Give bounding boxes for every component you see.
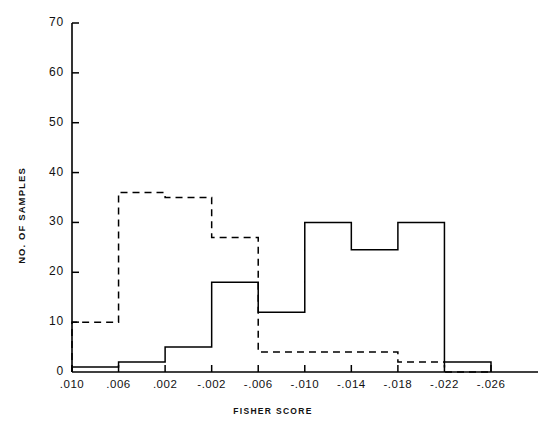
x-axis-ticks [72, 365, 491, 372]
series-dashed [72, 193, 491, 372]
y-tick-label: 60 [24, 65, 64, 79]
y-tick-label: 40 [24, 165, 64, 179]
histogram-figure: NO. OF SAMPLES FISHER SCORE 010203040506… [0, 0, 546, 427]
y-tick-label: 70 [24, 15, 64, 29]
y-tick-label: 50 [24, 115, 64, 129]
axis-lines [72, 23, 538, 372]
plot-area [0, 0, 546, 427]
y-tick-label: 0 [24, 364, 64, 378]
x-tick-label: -.026 [461, 378, 521, 390]
y-tick-label: 20 [24, 264, 64, 278]
x-axis-title-text: FISHER SCORE [233, 406, 312, 416]
x-axis-title: FISHER SCORE [0, 400, 546, 418]
y-tick-label: 10 [24, 314, 64, 328]
y-tick-label: 30 [24, 214, 64, 228]
series-solid [72, 222, 491, 372]
y-axis-ticks [72, 23, 79, 322]
